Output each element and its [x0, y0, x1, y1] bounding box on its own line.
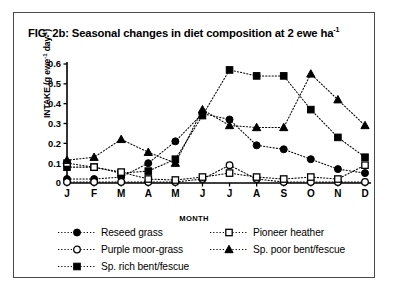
- marker-open-square: [172, 177, 178, 183]
- marker-filled-circle: [280, 146, 287, 153]
- marker-open-square: [226, 170, 232, 176]
- legend-marker-open-circle: [57, 244, 97, 255]
- legend-marker-filled-triangle: [209, 244, 249, 255]
- chart-canvas: 00.10.20.30.40.50.6JFMAMJJASOND: [13, 12, 375, 222]
- legend-marker-open-square: [209, 227, 249, 238]
- x-tick-label: D: [361, 188, 368, 199]
- legend-reseed-grass[interactable]: Reseed grass: [57, 224, 209, 241]
- marker-filled-triangle: [90, 153, 98, 160]
- legend-purple-moor-grass[interactable]: Purple moor-grass: [57, 241, 209, 258]
- legend-marker-filled-square: [57, 261, 97, 272]
- marker-open-square: [91, 164, 97, 170]
- series-sp-poor-bent-fescue: [63, 70, 369, 167]
- series-line: [67, 114, 365, 179]
- marker-open-square: [362, 162, 368, 168]
- marker-filled-square: [253, 73, 260, 80]
- legend-sp-poor-bent-fescue-label: Sp. poor bent/fescue: [253, 244, 345, 255]
- x-tick-label: M: [117, 188, 125, 199]
- plot-area: INTAKE (g ewe-1 day-1) 00.10.20.30.40.50…: [13, 12, 375, 278]
- marker-open-square: [145, 176, 151, 182]
- legend-pioneer-heather[interactable]: Pioneer heather: [209, 224, 369, 241]
- marker-open-square: [199, 174, 205, 180]
- x-tick-label: M: [171, 188, 179, 199]
- legend-sp-rich-bent-fescue-label: Sp. rich bent/fescue: [101, 261, 189, 272]
- marker-filled-triangle: [307, 70, 315, 77]
- marker-filled-triangle: [198, 105, 206, 112]
- marker-filled-triangle: [117, 135, 125, 142]
- marker-filled-circle: [334, 166, 341, 173]
- series-line: [67, 70, 365, 173]
- marker-filled-triangle: [144, 148, 152, 155]
- series-line: [67, 74, 365, 163]
- marker-filled-square: [280, 73, 287, 80]
- marker-open-square: [118, 169, 124, 175]
- marker-open-square: [226, 229, 232, 235]
- x-tick-label: N: [334, 188, 341, 199]
- marker-filled-square: [335, 134, 342, 141]
- marker-filled-circle: [145, 160, 152, 167]
- x-axis-label: MONTH: [13, 214, 375, 223]
- x-tick-label: F: [91, 188, 97, 199]
- marker-filled-square: [226, 67, 233, 74]
- marker-filled-square: [145, 168, 152, 175]
- marker-filled-square: [74, 263, 81, 270]
- marker-open-circle: [362, 179, 369, 186]
- legend-sp-poor-bent-fescue[interactable]: Sp. poor bent/fescue: [209, 241, 369, 258]
- marker-open-circle: [91, 179, 98, 186]
- marker-filled-square: [362, 154, 369, 161]
- x-tick-label: J: [64, 188, 70, 199]
- marker-filled-circle: [172, 138, 179, 145]
- marker-open-square: [308, 174, 314, 180]
- marker-open-circle: [64, 179, 71, 186]
- x-tick-label: O: [307, 188, 315, 199]
- legend-purple-moor-grass-label: Purple moor-grass: [101, 244, 183, 255]
- x-tick-label: A: [145, 188, 152, 199]
- y-tick-label: 0.3: [48, 118, 61, 129]
- y-tick-label: 0: [56, 177, 61, 188]
- y-tick-label: 0.2: [48, 138, 61, 149]
- marker-open-circle: [118, 179, 125, 186]
- marker-open-circle: [74, 246, 81, 253]
- marker-open-square: [335, 176, 341, 182]
- marker-filled-circle: [362, 170, 369, 177]
- series-sp-rich-bent-fescue: [64, 67, 369, 177]
- legend-reseed-grass-label: Reseed grass: [101, 227, 163, 238]
- y-tick-label: 0.5: [48, 78, 61, 89]
- legend-pioneer-heather-label: Pioneer heather: [253, 227, 324, 238]
- marker-filled-circle: [253, 142, 260, 149]
- chart-legend: Reseed grassPioneer heatherPurple moor-g…: [57, 224, 369, 275]
- x-tick-label: S: [280, 188, 287, 199]
- marker-filled-triangle: [334, 96, 342, 103]
- y-tick-label: 0.1: [48, 158, 61, 169]
- legend-marker-filled-circle: [57, 227, 97, 238]
- y-tick-label: 0.6: [48, 58, 61, 69]
- series-line: [67, 165, 365, 182]
- marker-open-square: [253, 174, 259, 180]
- series-purple-moor-grass: [64, 162, 369, 185]
- x-tick-label: A: [253, 188, 260, 199]
- marker-filled-square: [308, 106, 315, 113]
- marker-filled-circle: [74, 229, 81, 236]
- marker-filled-circle: [307, 156, 314, 163]
- marker-open-square: [281, 176, 287, 182]
- marker-open-circle: [226, 162, 233, 169]
- legend-sp-rich-bent-fescue[interactable]: Sp. rich bent/fescue: [57, 258, 209, 275]
- x-tick-label: J: [200, 188, 206, 199]
- marker-filled-triangle: [280, 123, 288, 130]
- y-tick-label: 0.4: [48, 98, 62, 109]
- x-tick-label: J: [227, 188, 233, 199]
